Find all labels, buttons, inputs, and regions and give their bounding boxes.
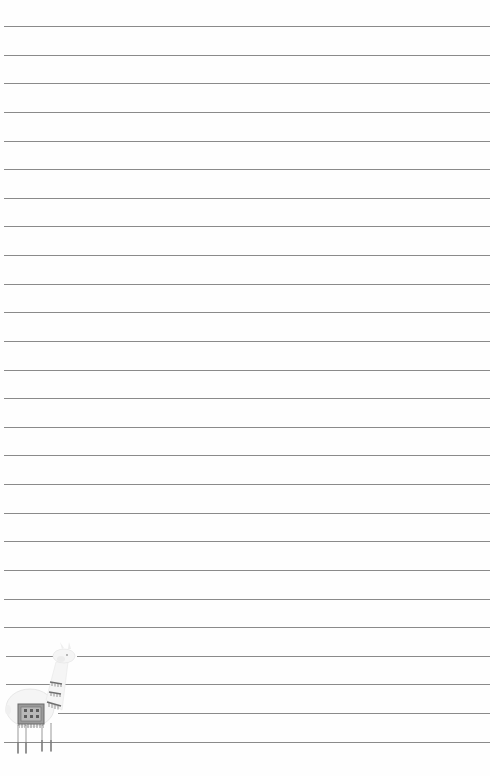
ruled-line bbox=[4, 169, 490, 170]
ruled-line bbox=[4, 255, 490, 256]
ruled-line bbox=[4, 484, 490, 485]
ruled-line bbox=[58, 713, 490, 714]
ruled-line bbox=[4, 141, 490, 142]
ruled-line bbox=[4, 83, 490, 84]
ruled-line bbox=[4, 627, 490, 628]
ruled-line bbox=[4, 26, 490, 27]
ruled-line bbox=[4, 312, 490, 313]
ruled-line bbox=[4, 455, 490, 456]
ruled-line bbox=[4, 570, 490, 571]
ruled-line bbox=[4, 370, 490, 371]
ruled-line bbox=[4, 599, 490, 600]
llama-illustration-icon bbox=[0, 640, 90, 755]
ruled-line bbox=[4, 55, 490, 56]
ruled-line bbox=[4, 427, 490, 428]
ruled-line bbox=[4, 112, 490, 113]
ruled-line bbox=[4, 341, 490, 342]
ruled-line bbox=[4, 513, 490, 514]
ruled-line bbox=[4, 198, 490, 199]
ruled-line bbox=[4, 541, 490, 542]
ruled-line bbox=[4, 226, 490, 227]
ruled-line bbox=[77, 656, 490, 657]
ruled-line bbox=[4, 398, 490, 399]
ruled-line bbox=[4, 284, 490, 285]
